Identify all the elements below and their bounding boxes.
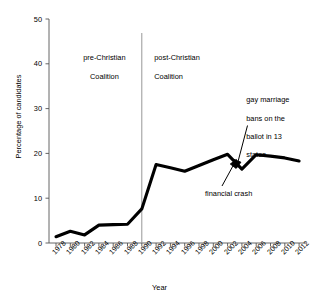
y-axis-title: Percentage of candidates [14,47,23,187]
x-axis-title: Year [0,283,319,292]
annotation-pre-christian-coalition: pre-Christian Coalition [75,44,126,90]
annotation-post-line2: Coalition [154,72,183,81]
y-tick-label-20: 20 [22,149,42,158]
annotation-post-christian-coalition: post-Christian Coalition [146,44,200,90]
annotation-gay-line2: bans on the [246,114,285,123]
annotation-financial-crash: financial crash [205,189,252,198]
annotation-gay-line4: states [246,150,266,159]
y-tick-label-10: 10 [22,194,42,203]
financial-crash-arrow [222,160,236,187]
y-axis-ticks [46,19,50,243]
y-tick-label-0: 0 [22,239,42,248]
y-tick-label-50: 50 [22,15,42,24]
annotation-gay-line3: ballot in 13 [246,132,282,141]
annotation-gay-line1: gay marriage [246,95,289,104]
annotation-pre-line2: Coalition [90,72,119,81]
y-tick-label-30: 30 [22,104,42,113]
chart-figure: 50 40 30 20 10 0 1978 1980 1982 1984 198… [0,0,319,301]
annotation-gay-marriage-bans: gay marriage bans on the ballot in 13 st… [238,86,289,169]
y-tick-label-40: 40 [22,59,42,68]
annotation-post-line1: post-Christian [154,53,200,62]
annotation-pre-line1: pre-Christian [83,53,125,62]
